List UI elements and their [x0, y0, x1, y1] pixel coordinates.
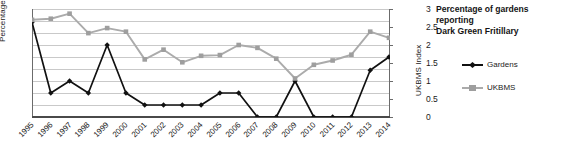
data-point: [124, 29, 129, 34]
y-axis-right-tick-mark: [390, 45, 393, 46]
data-point: [218, 53, 223, 58]
data-point: [48, 16, 53, 21]
chart-screenshot: Percentage UKBMS Index 0123456789 00.511…: [0, 0, 561, 149]
data-point: [161, 47, 166, 52]
data-point: [368, 29, 373, 34]
series-line-ukbms: [32, 14, 389, 79]
data-point: [312, 63, 317, 68]
data-point: [180, 60, 185, 65]
data-point: [180, 102, 185, 107]
y-axis-right-tick-mark: [390, 99, 393, 100]
series-line-gardens: [32, 22, 389, 117]
legend-item-gardens[interactable]: Gardens: [462, 58, 518, 72]
y-axis-right-tick-mark: [390, 81, 393, 82]
square-marker-icon: [469, 85, 476, 91]
y-axis-right-tick-mark: [390, 117, 393, 118]
chart-title-line-1: Percentage of gardens reporting: [436, 4, 561, 26]
chart-area: Percentage UKBMS Index 0123456789 00.511…: [0, 0, 420, 149]
data-point: [330, 114, 335, 117]
plot-region: 0123456789 00.511.522.53: [32, 9, 390, 117]
gridline: [32, 117, 390, 118]
y-axis-right-tick-mark: [390, 63, 393, 64]
data-point: [161, 102, 166, 107]
data-point: [32, 18, 34, 23]
chart-legend: Gardens UKBMS: [462, 58, 518, 104]
legend-swatch-gardens: [462, 60, 483, 70]
y-axis-right-title: UKBMS Index: [414, 45, 423, 96]
y-axis-right-tick-mark: [390, 9, 393, 10]
chart-title-line-2: Dark Green Fritillary: [436, 26, 561, 37]
diamond-marker-icon: [469, 62, 476, 68]
data-point: [86, 31, 91, 36]
data-point: [104, 42, 109, 47]
data-point: [236, 43, 241, 48]
series-layer: [32, 9, 390, 117]
data-point: [199, 54, 204, 59]
chart-side-panel: Percentage of gardens reporting Dark Gre…: [434, 0, 561, 149]
data-point: [255, 46, 260, 51]
data-point: [67, 11, 72, 16]
y-axis-right-tick-mark: [390, 27, 393, 28]
data-point: [105, 26, 110, 31]
legend-swatch-ukbms: [462, 83, 483, 93]
x-axis-ticks: 1995199619971998199920002001200220032004…: [32, 121, 390, 149]
legend-label-gardens: Gardens: [487, 60, 518, 70]
data-point: [274, 56, 279, 61]
y-axis-left-title: Percentage: [0, 0, 7, 42]
data-point: [142, 57, 147, 62]
data-point: [349, 114, 354, 117]
legend-label-ukbms: UKBMS: [487, 83, 515, 93]
data-point: [349, 52, 354, 57]
data-point: [387, 36, 390, 41]
chart-title: Percentage of gardens reporting Dark Gre…: [436, 4, 561, 37]
data-point: [330, 58, 335, 63]
legend-item-ukbms[interactable]: UKBMS: [462, 81, 518, 95]
data-point: [293, 76, 298, 81]
